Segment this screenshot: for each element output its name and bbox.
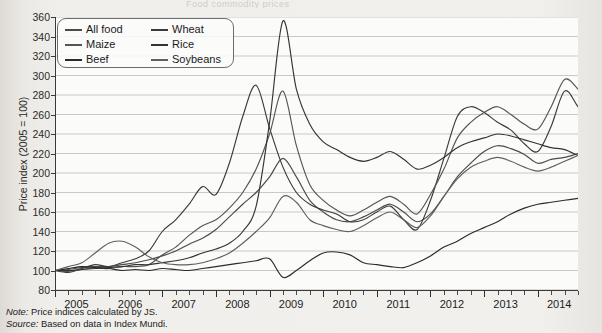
x-tick-mark-minor xyxy=(498,291,499,295)
x-tick-mark-minor xyxy=(524,291,525,295)
x-tick-mark-minor xyxy=(82,291,83,295)
legend-label: Wheat xyxy=(172,23,204,36)
x-tick-mark-minor xyxy=(122,291,123,295)
x-tick-mark-minor xyxy=(337,291,338,295)
x-tick-mark-minor xyxy=(68,291,69,295)
x-tick-label: 2012 xyxy=(440,298,464,310)
legend-item-wheat: Wheat xyxy=(151,23,237,36)
x-tick-mark-major xyxy=(216,291,217,297)
y-tick-mark xyxy=(51,76,56,77)
x-axis-line xyxy=(55,290,578,291)
series-line-soybeans xyxy=(55,150,578,271)
legend-item-soybeans: Soybeans xyxy=(151,53,237,66)
y-tick-label: 120 xyxy=(22,246,50,256)
y-tick-mark xyxy=(51,173,56,174)
x-tick-mark-minor xyxy=(176,291,177,295)
y-tick-mark xyxy=(51,17,56,18)
y-tick-label: 100 xyxy=(22,266,50,276)
y-tick-mark xyxy=(51,232,56,233)
y-tick-mark xyxy=(51,212,56,213)
x-tick-mark-minor xyxy=(283,291,284,295)
x-tick-mark-major xyxy=(323,291,324,297)
legend-label: Maize xyxy=(86,38,115,51)
y-tick-mark xyxy=(51,154,56,155)
x-tick-mark-major xyxy=(270,291,271,297)
x-tick-mark-minor xyxy=(551,291,552,295)
legend-swatch-icon xyxy=(151,59,168,61)
figure-notes: Note: Price indices calculated by JS. So… xyxy=(6,306,426,330)
y-tick-label: 360 xyxy=(22,12,50,22)
x-tick-mark-minor xyxy=(404,291,405,295)
y-tick-mark xyxy=(51,37,56,38)
legend-swatch-icon xyxy=(65,59,82,61)
x-tick-mark-minor xyxy=(256,291,257,295)
x-tick-mark-minor xyxy=(457,291,458,295)
legend-label: Rice xyxy=(172,38,194,51)
x-tick-mark-minor xyxy=(444,291,445,295)
x-tick-mark-major xyxy=(430,291,431,297)
legend-swatch-icon xyxy=(65,29,82,31)
x-tick-mark-major xyxy=(377,291,378,297)
x-tick-mark-major xyxy=(55,291,56,297)
legend-swatch-icon xyxy=(151,44,168,46)
y-tick-mark xyxy=(51,115,56,116)
legend-swatch-icon xyxy=(65,44,82,46)
legend-label: All food xyxy=(86,23,123,36)
x-tick-mark-minor xyxy=(511,291,512,295)
legend-label: Soybeans xyxy=(172,53,221,66)
y-tick-mark xyxy=(51,95,56,96)
x-tick-mark-minor xyxy=(149,291,150,295)
note-label: Note: xyxy=(6,306,28,317)
note-line: Note: Price indices calculated by JS. xyxy=(6,306,426,318)
y-tick-mark xyxy=(51,56,56,57)
x-tick-mark-minor xyxy=(310,291,311,295)
x-tick-mark-minor xyxy=(578,291,579,295)
y-tick-mark xyxy=(51,251,56,252)
y-tick-mark xyxy=(51,193,56,194)
x-tick-mark-minor xyxy=(229,291,230,295)
x-tick-mark-minor xyxy=(95,291,96,295)
legend-label: Beef xyxy=(86,53,109,66)
x-tick-mark-minor xyxy=(471,291,472,295)
x-tick-mark-minor xyxy=(296,291,297,295)
x-tick-mark-minor xyxy=(390,291,391,295)
x-tick-mark-minor xyxy=(243,291,244,295)
y-tick-label: 80 xyxy=(22,285,50,295)
chart-legend: All foodWheatMaizeRiceBeefSoybeans xyxy=(57,18,234,68)
y-tick-label: 340 xyxy=(22,32,50,42)
x-tick-mark-major xyxy=(109,291,110,297)
source-text: Based on data in Index Mundi. xyxy=(41,318,168,329)
legend-item-maize: Maize xyxy=(65,38,151,51)
legend-item-rice: Rice xyxy=(151,38,237,51)
x-tick-label: 2014 xyxy=(547,298,571,310)
x-tick-mark-minor xyxy=(350,291,351,295)
x-tick-mark-minor xyxy=(203,291,204,295)
x-tick-label: 2013 xyxy=(493,298,517,310)
x-tick-mark-minor xyxy=(417,291,418,295)
x-tick-mark-major xyxy=(162,291,163,297)
y-tick-mark xyxy=(51,271,56,272)
legend-item-beef: Beef xyxy=(65,53,151,66)
y-tick-mark xyxy=(51,134,56,135)
legend-item-all-food: All food xyxy=(65,23,151,36)
note-text: Price indices calculated by JS. xyxy=(31,306,158,317)
source-label: Source: xyxy=(6,318,38,329)
figure-title-remnant: Food commodity prices xyxy=(186,0,366,8)
series-line-beef xyxy=(55,171,578,278)
x-tick-mark-minor xyxy=(189,291,190,295)
x-tick-mark-major xyxy=(538,291,539,297)
series-line-maize xyxy=(55,79,578,272)
source-line: Source: Based on data in Index Mundi. xyxy=(6,318,426,330)
y-axis-label: Price index (2005 = 100) xyxy=(17,79,29,229)
x-tick-mark-minor xyxy=(363,291,364,295)
x-tick-mark-major xyxy=(484,291,485,297)
y-tick-mark xyxy=(51,290,56,291)
figure-root: Food commodity prices 801001201401601802… xyxy=(0,0,602,333)
legend-swatch-icon xyxy=(151,29,168,31)
series-line-wheat xyxy=(55,85,578,272)
x-tick-mark-minor xyxy=(135,291,136,295)
y-tick-label: 320 xyxy=(22,51,50,61)
x-tick-mark-minor xyxy=(565,291,566,295)
